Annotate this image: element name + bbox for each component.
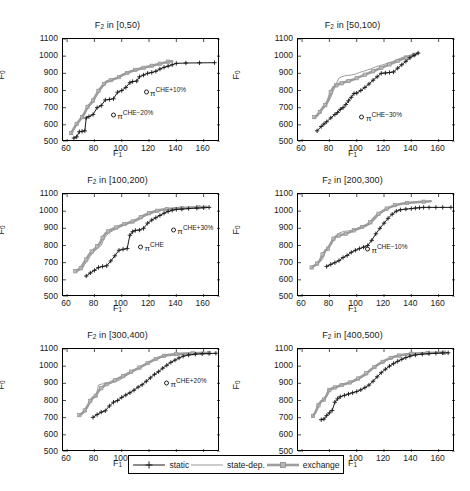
marker-plus — [174, 61, 178, 65]
marker-plus — [417, 206, 421, 210]
y-tick-label: 900 — [28, 222, 58, 232]
plot-area: πCHE+30%πCHE — [62, 193, 219, 296]
plot-annotation: πCHE−30% — [359, 111, 402, 122]
marker-plus — [170, 63, 174, 67]
panel-title: F2 in [50,100) — [235, 20, 470, 30]
annotation-label: πCHE+20% — [171, 378, 207, 389]
series-line-exchange — [313, 353, 444, 416]
marker-plus — [353, 248, 357, 252]
panel-p1: F2 in [0,50)5006007008009001000110060801… — [0, 18, 235, 173]
marker-plus — [333, 260, 337, 264]
legend-sample-exchange — [266, 460, 300, 470]
marker-plus — [395, 359, 399, 363]
x-axis-label: F1 — [235, 303, 470, 313]
panel-title: F2 in [300,400) — [0, 330, 235, 340]
marker-plus — [350, 391, 354, 395]
annotation-label: πCHE+10% — [150, 87, 186, 98]
y-tick-label: 700 — [263, 412, 293, 422]
y-tick-label: 600 — [263, 274, 293, 284]
marker-plus — [121, 247, 125, 251]
marker-plus — [150, 70, 154, 74]
y-tick-label: 600 — [28, 274, 58, 284]
y-axis-ticks: 50060070080090010001100 — [261, 348, 293, 451]
y-axis-label: F0 — [231, 225, 241, 234]
y-tick-label: 700 — [263, 257, 293, 267]
marker-plus — [154, 69, 158, 73]
y-axis-label: F0 — [0, 70, 6, 79]
y-tick-label: 600 — [28, 119, 58, 129]
panel-p2: F2 in [50,100)50060070080090010001100608… — [235, 18, 470, 173]
legend: static state-dep. exchange — [128, 455, 344, 474]
marker-plus — [398, 208, 402, 212]
y-tick-label: 1100 — [28, 188, 58, 198]
marker-plus — [409, 206, 413, 210]
circle-marker-icon — [171, 228, 176, 233]
y-axis-label: F0 — [0, 225, 6, 234]
circle-marker-icon — [144, 90, 149, 95]
panel-title: F2 in [200,300) — [235, 175, 470, 185]
marker-plus — [404, 355, 408, 359]
marker-plus — [446, 351, 450, 355]
x-axis-label: F1 — [235, 148, 470, 158]
figure-canvas: F2 in [0,50)5006007008009001000110060801… — [0, 0, 470, 491]
marker-plus — [158, 67, 162, 71]
y-tick-label: 1100 — [28, 343, 58, 353]
plot-annotation: πCHE — [138, 242, 164, 253]
marker-plus — [421, 205, 425, 209]
marker-plus — [80, 129, 84, 133]
marker-plus — [125, 246, 129, 250]
marker-plus — [319, 418, 323, 422]
plot-area: πCHE−10% — [297, 193, 454, 296]
marker-plus — [197, 61, 201, 65]
marker-plus — [137, 228, 141, 232]
panel-title: F2 in [400,500) — [235, 330, 470, 340]
plot-area: πCHE+10%πCHE−20% — [62, 38, 219, 141]
marker-square — [344, 232, 347, 235]
marker-plus — [173, 358, 177, 362]
marker-plus — [100, 264, 104, 268]
circle-marker-icon — [359, 114, 364, 119]
marker-plus — [342, 393, 346, 397]
panel-title: F2 in [100,200) — [0, 175, 235, 185]
y-tick-label: 800 — [28, 85, 58, 95]
marker-plus — [324, 264, 328, 268]
y-axis-ticks: 50060070080090010001100 — [26, 193, 58, 296]
legend-sample-state-dep — [190, 460, 224, 470]
marker-plus — [359, 388, 363, 392]
plot-annotation: πCHE+30% — [171, 225, 214, 236]
marker-square — [363, 73, 366, 76]
marker-plus — [162, 65, 166, 69]
legend-label-exchange: exchange — [303, 460, 340, 470]
marker-plus — [413, 206, 417, 210]
marker-plus — [141, 73, 145, 77]
circle-marker-icon — [138, 245, 143, 250]
y-tick-label: 1000 — [28, 360, 58, 370]
legend-item-exchange: exchange — [266, 460, 340, 470]
plot-svg — [298, 349, 455, 452]
y-axis-ticks: 50060070080090010001100 — [26, 348, 58, 451]
marker-plus — [158, 213, 162, 217]
y-axis-label: F0 — [0, 380, 6, 389]
legend-sample-static — [132, 460, 166, 470]
y-axis-ticks: 50060070080090010001100 — [261, 38, 293, 141]
y-tick-label: 1100 — [263, 343, 293, 353]
y-tick-label: 600 — [263, 429, 293, 439]
marker-plus — [346, 392, 350, 396]
marker-plus — [404, 207, 408, 211]
y-tick-label: 800 — [263, 395, 293, 405]
y-tick-label: 800 — [263, 240, 293, 250]
marker-plus — [355, 389, 359, 393]
series-line-state_dep — [312, 201, 432, 268]
annotation-label: πCHE+30% — [177, 225, 213, 236]
marker-square — [347, 79, 350, 82]
plot-area — [297, 348, 454, 451]
legend-item-state-dep: state-dep. — [190, 460, 265, 470]
plot-area: πCHE+20% — [62, 348, 219, 451]
marker-plus — [184, 61, 188, 65]
marker-plus — [99, 410, 103, 414]
marker-plus — [154, 215, 158, 219]
plot-annotation: πCHE−10% — [365, 244, 408, 255]
legend-label-state-dep: state-dep. — [227, 460, 265, 470]
y-tick-label: 900 — [263, 67, 293, 77]
marker-plus — [83, 129, 87, 133]
